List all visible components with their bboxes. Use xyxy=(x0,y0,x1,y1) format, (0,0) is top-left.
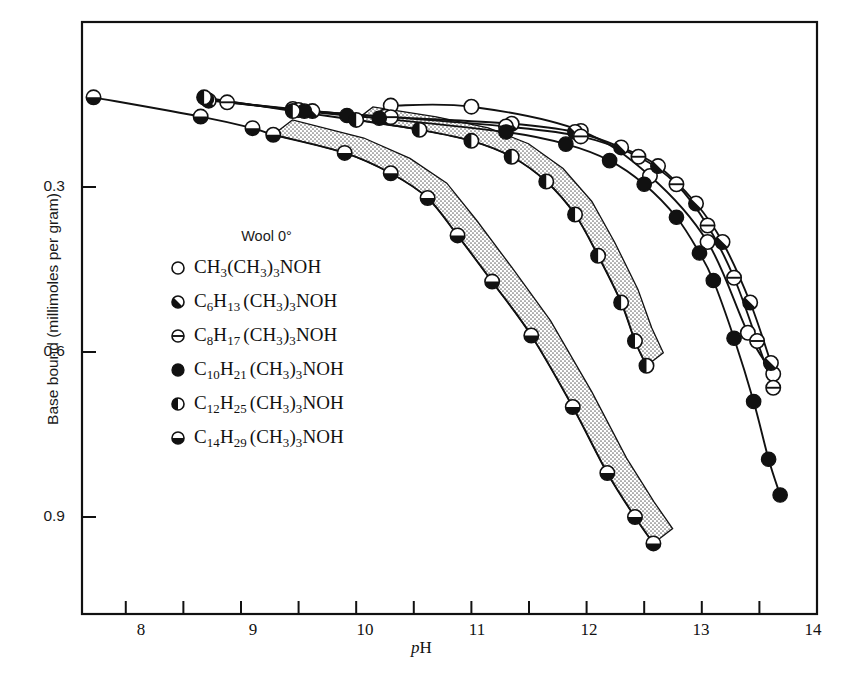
x-tick-label-9: 9 xyxy=(233,620,273,640)
data-point-5-8 xyxy=(485,274,499,288)
data-point-5-12 xyxy=(628,510,642,524)
y-axis-title: Base bound (millimoles per gram) xyxy=(44,159,62,459)
data-point-3-12 xyxy=(746,394,760,408)
data-point-4-11 xyxy=(639,359,653,373)
data-point-4-0 xyxy=(197,90,211,104)
data-point-3-13 xyxy=(761,452,775,466)
data-point-5-1 xyxy=(193,109,207,123)
data-point-3-10 xyxy=(706,273,720,287)
half-diagonal-glyph xyxy=(172,296,184,308)
data-point-3-3 xyxy=(372,111,386,125)
data-point-1-10 xyxy=(743,295,757,309)
data-point-4-4 xyxy=(464,134,478,148)
legend-title: Wool 0° xyxy=(174,228,359,244)
data-point-3-7 xyxy=(637,177,651,191)
data-point-4-8 xyxy=(591,249,605,263)
data-point-5-4 xyxy=(337,146,351,160)
legend-item-0[interactable]: CH3(CH3)3NOH xyxy=(168,251,468,285)
y-tick-label-2: 0.9 xyxy=(25,507,65,525)
data-point-2-10 xyxy=(766,381,780,395)
data-point-5-9 xyxy=(524,328,538,342)
legend-item-label-2: C8H17(CH3)3NOH xyxy=(194,324,337,349)
half-left-icon xyxy=(168,394,188,414)
x-tick-label-13: 13 xyxy=(681,620,721,640)
data-point-4-9 xyxy=(614,295,628,309)
data-point-3-4 xyxy=(499,125,513,139)
data-point-2-7 xyxy=(700,218,714,232)
data-point-2-6 xyxy=(669,177,683,191)
chart-figure: 0.3 0.6 0.9 8 9 10 11 12 13 14 Base boun… xyxy=(0,0,843,682)
data-point-1-6 xyxy=(614,140,628,154)
data-point-2-4 xyxy=(574,129,588,143)
x-tick-label-11: 11 xyxy=(457,620,497,640)
data-point-2-5 xyxy=(631,150,645,164)
data-point-5-3 xyxy=(266,128,280,142)
x-tick-label-14: 14 xyxy=(793,620,833,640)
data-point-1-8 xyxy=(689,196,703,210)
data-point-3-6 xyxy=(602,153,616,167)
legend-rows: CH3(CH3)3NOHC6H13(CH3)3NOHC8H17(CH3)3NOH… xyxy=(168,251,468,455)
x-tick-label-10: 10 xyxy=(345,620,385,640)
legend-item-label-0: CH3(CH3)3NOH xyxy=(194,256,321,281)
legend-item-label-4: C12H25(CH3)3NOH xyxy=(194,392,344,417)
data-point-4-7 xyxy=(568,207,582,221)
half-bottom-icon xyxy=(168,428,188,448)
legend-item-5[interactable]: C14H29(CH3)3NOH xyxy=(168,421,468,455)
legend-item-4[interactable]: C12H25(CH3)3NOH xyxy=(168,387,468,421)
data-point-5-6 xyxy=(420,191,434,205)
data-point-1-11 xyxy=(764,356,778,370)
data-point-2-0 xyxy=(220,95,234,109)
legend-item-label-3: C10H21(CH3)3NOH xyxy=(194,358,344,383)
data-point-3-14 xyxy=(773,488,787,502)
open-circle-glyph xyxy=(172,262,184,274)
legend-item-3[interactable]: C10H21(CH3)3NOH xyxy=(168,353,468,387)
data-point-5-2 xyxy=(245,121,259,135)
legend-item-label-5: C14H29(CH3)3NOH xyxy=(194,426,344,451)
data-point-4-5 xyxy=(505,150,519,164)
data-point-3-9 xyxy=(692,246,706,260)
x-axis-title-h: H xyxy=(420,638,432,657)
half-bottom-glyph xyxy=(172,432,184,444)
legend-item-2[interactable]: C8H17(CH3)3NOH xyxy=(168,319,468,353)
data-point-4-6 xyxy=(539,174,553,188)
data-point-3-11 xyxy=(727,331,741,345)
data-point-4-1 xyxy=(286,104,300,118)
data-point-5-11 xyxy=(600,466,614,480)
half-left-glyph xyxy=(172,398,184,410)
data-point-5-10 xyxy=(566,400,580,414)
half-diagonal-icon xyxy=(168,292,188,312)
data-point-0-1 xyxy=(464,100,478,114)
filled-circle-icon xyxy=(168,360,188,380)
data-point-5-5 xyxy=(384,166,398,180)
legend: Wool 0° CH3(CH3)3NOHC6H13(CH3)3NOHC8H17(… xyxy=(168,228,468,455)
data-point-5-13 xyxy=(646,536,660,550)
data-point-2-8 xyxy=(727,271,741,285)
open-circle-icon xyxy=(168,258,188,278)
x-axis-title: pH xyxy=(0,638,843,658)
x-axis-title-p: p xyxy=(411,638,420,657)
data-point-1-7 xyxy=(651,159,665,173)
legend-item-label-1: C6H13(CH3)3NOH xyxy=(194,290,337,315)
data-point-5-0 xyxy=(86,90,100,104)
data-point-4-2 xyxy=(349,113,363,127)
x-tick-label-8: 8 xyxy=(121,620,161,640)
filled-circle-glyph xyxy=(172,364,184,376)
data-point-4-3 xyxy=(412,123,426,137)
x-tick-label-12: 12 xyxy=(569,620,609,640)
data-point-4-10 xyxy=(628,334,642,348)
data-point-2-9 xyxy=(750,334,764,348)
legend-item-1[interactable]: C6H13(CH3)3NOH xyxy=(168,285,468,319)
circle-hline-glyph xyxy=(172,330,184,342)
data-point-3-8 xyxy=(669,210,683,224)
data-point-3-5 xyxy=(559,137,573,151)
data-point-1-9 xyxy=(715,235,729,249)
circle-hline-icon xyxy=(168,326,188,346)
